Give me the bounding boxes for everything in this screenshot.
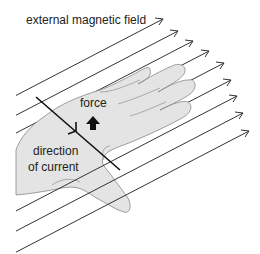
current-label-line2: of current xyxy=(28,160,79,174)
field-label: external magnetic field xyxy=(26,13,146,27)
force-label: force xyxy=(80,96,107,110)
left-hand-rule-diagram: external magnetic field force direction … xyxy=(0,0,260,254)
current-label-line1: direction xyxy=(33,144,78,158)
